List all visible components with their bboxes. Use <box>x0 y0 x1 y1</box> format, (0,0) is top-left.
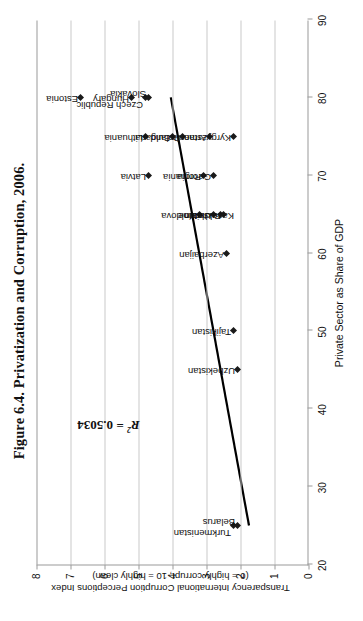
x-axis-tick-label: 80 <box>316 92 327 103</box>
x-axis-tick <box>307 96 312 97</box>
gridline <box>240 20 241 564</box>
x-axis-tick <box>307 18 312 19</box>
data-point-label: Georgia <box>176 171 210 182</box>
x-axis-tick <box>307 329 312 330</box>
x-axis-tick-label: 50 <box>316 326 327 337</box>
y-axis-tick-label: 7 <box>65 573 76 589</box>
y-axis-tick <box>104 564 105 569</box>
data-point-label: Uzbekistan <box>187 366 234 377</box>
gridline <box>172 20 173 564</box>
y-axis-tick-label: 5 <box>133 573 144 589</box>
x-axis-title: Private Sector as Share of GDP <box>332 20 344 565</box>
y-axis-tick <box>36 564 37 569</box>
y-axis-tick-label: 2 <box>235 573 246 589</box>
r-squared-symbol: R <box>131 418 140 433</box>
x-axis-tick <box>307 174 312 175</box>
x-axis-tick-label: 30 <box>316 482 327 493</box>
y-axis-tick <box>138 564 139 569</box>
x-axis-tick-label: 70 <box>316 170 327 181</box>
data-point-label: Kazakhstan <box>183 210 233 221</box>
plot-area: EstoniaHungaryCzech RepublicSlovakiaLatv… <box>36 20 308 565</box>
x-axis-tick-label: 60 <box>316 248 327 259</box>
data-point-label: Tajikistan <box>192 327 231 338</box>
x-axis-tick-label: 40 <box>316 404 327 415</box>
y-axis-tick <box>274 564 275 569</box>
gridline <box>36 20 37 564</box>
data-point-label: Belarus <box>202 517 234 528</box>
gridline <box>274 20 275 564</box>
x-axis-tick-label: 20 <box>316 559 327 570</box>
x-axis-tick <box>307 563 312 564</box>
y-axis-tick <box>308 564 309 569</box>
figure-title: Figure 6.4. Privatization and Corruption… <box>10 0 27 621</box>
y-axis-tick <box>206 564 207 569</box>
data-point-label: Latvia <box>120 171 145 182</box>
data-point-label: Czech Republic <box>76 99 143 110</box>
gridline <box>206 20 207 564</box>
x-axis-tick <box>307 485 312 486</box>
r-squared-annotation: R2 = 0.5034 <box>77 417 139 433</box>
y-axis-tick <box>70 564 71 569</box>
data-point-label: Estonia <box>46 93 78 104</box>
y-axis-tick-label: 4 <box>167 573 178 589</box>
y-axis-tick-label: 3 <box>201 573 212 589</box>
y-axis-tick-label: 0 <box>303 573 314 589</box>
trendline-segment <box>170 97 248 525</box>
y-axis-tick <box>172 564 173 569</box>
x-axis-tick <box>307 252 312 253</box>
y-axis-tick <box>240 564 241 569</box>
x-axis-tick-label: 90 <box>316 14 327 25</box>
r-squared-exponent: 2 <box>127 424 131 433</box>
figure-container: Figure 6.4. Privatization and Corruption… <box>0 0 363 621</box>
data-point-label: Azerbaijan <box>179 249 224 260</box>
x-axis-tick <box>307 407 312 408</box>
data-point-label: Turkmenistan <box>173 528 230 539</box>
y-axis-tick-label: 1 <box>269 573 280 589</box>
y-axis-tick-label: 8 <box>31 573 42 589</box>
data-point-label: Slovakia <box>110 88 146 99</box>
data-point-label: Kyrgyzstan <box>184 132 231 143</box>
r-squared-value: = 0.5034 <box>77 418 127 433</box>
y-axis-tick-label: 6 <box>99 573 110 589</box>
